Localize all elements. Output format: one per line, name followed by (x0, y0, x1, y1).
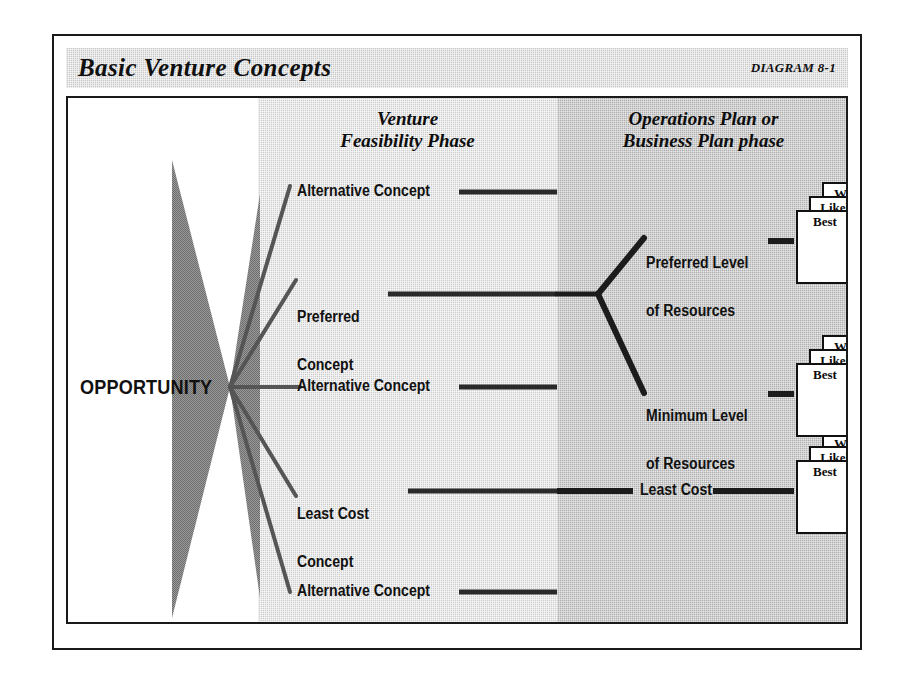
resource-label-preferred-level-line1: Preferred Level (646, 255, 749, 271)
scenario-stack-minimum: Worst Likely Best (796, 335, 848, 441)
scenario-card-best: Best (796, 363, 848, 437)
resource-label-preferred-level: Preferred Level of Resources (646, 223, 749, 351)
scenario-card-best: Best (796, 210, 848, 284)
concept-label-preferred-line2: Concept (297, 357, 360, 373)
scenario-card-best-label: Best (798, 464, 848, 480)
scenario-stack-preferred: Worst Likely Best (796, 182, 848, 288)
resource-label-minimum-level-line1: Minimum Level (646, 408, 748, 424)
concept-label-alt-1: Alternative Concept (297, 183, 430, 199)
diagram-number: DIAGRAM 8-1 (751, 60, 836, 76)
concept-label-preferred-line1: Preferred (297, 309, 360, 325)
diagram-content-frame: Venture Feasibility Phase Operations Pla… (66, 96, 848, 624)
diagram-canvas: Basic Venture Concepts DIAGRAM 8-1 Ventu… (0, 0, 908, 684)
resource-label-least-cost: Least Cost (640, 482, 712, 498)
concept-label-alt-3: Alternative Concept (297, 583, 430, 599)
resource-label-preferred-level-line2: of Resources (646, 303, 749, 319)
scenario-card-best-label: Best (798, 214, 848, 230)
diagram-vector-layer (68, 98, 848, 624)
scenario-card-best-label: Best (798, 367, 848, 383)
opportunity-label: OPPORTUNITY (80, 375, 212, 399)
scenario-card-best: Best (796, 460, 848, 534)
concept-label-least-cost-line1: Least Cost (297, 506, 369, 522)
resource-label-minimum-level-line2: of Resources (646, 456, 748, 472)
fork-branch-lower (598, 294, 644, 393)
concept-label-least-cost-line2: Concept (297, 554, 369, 570)
scenario-stack-least-cost: Worst Likely Best (796, 432, 848, 538)
page-title: Basic Venture Concepts (78, 54, 331, 82)
fork-branch-upper (598, 238, 644, 294)
title-bar: Basic Venture Concepts DIAGRAM 8-1 (66, 48, 848, 88)
concept-label-alt-2: Alternative Concept (297, 378, 430, 394)
